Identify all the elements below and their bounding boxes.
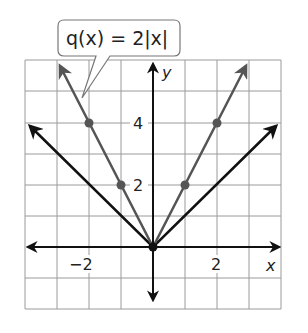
function-callout: q(x) = 2|x| [58,20,180,98]
origin-point [149,243,158,252]
graph: −2 2 4 2 x y q(x) = 2|x| [0,0,308,333]
x-tick-2: 2 [211,255,221,274]
y-tick-4: 4 [133,114,143,133]
y-tick-2: 2 [133,176,143,195]
x-tick-neg2: −2 [69,255,93,274]
x-axis-label: x [265,256,276,275]
y-axis-label: y [161,63,172,82]
callout-label: q(x) = 2|x| [66,27,168,50]
